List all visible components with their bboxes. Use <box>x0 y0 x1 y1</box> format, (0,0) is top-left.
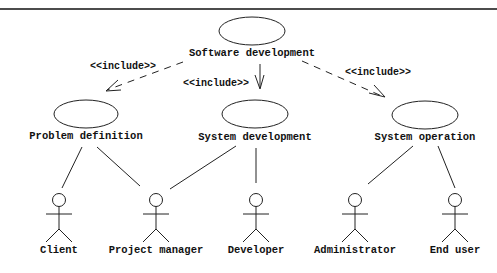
association-so-admin <box>368 146 413 184</box>
use-case-ellipse <box>219 17 285 45</box>
use-case-system-operation[interactable]: System operation <box>375 101 476 143</box>
use-case-label: Problem definition <box>29 130 142 142</box>
use-case-label: Software development <box>189 47 315 59</box>
actor-left-leg-icon <box>442 229 455 242</box>
association-so-enduser <box>438 146 455 188</box>
actor-left-leg-icon <box>243 229 256 242</box>
use-case-diagram: Software development Problem definition … <box>0 0 497 273</box>
association-pd-pm <box>97 147 140 186</box>
actor-right-leg-icon <box>156 229 169 242</box>
actor-pm[interactable]: Project manager <box>109 194 204 257</box>
actor-label: Administrator <box>314 244 396 256</box>
actor-right-leg-icon <box>455 229 468 242</box>
association-pd-client <box>62 147 82 188</box>
actor-left-leg-icon <box>46 229 59 242</box>
use-case-problem-definition[interactable]: Problem definition <box>29 100 142 142</box>
actor-head-icon <box>449 194 462 207</box>
use-case-ellipse <box>54 100 118 128</box>
actor-label: Developer <box>228 244 285 256</box>
use-case-ellipse <box>222 100 288 128</box>
use-case-ellipse <box>392 101 458 129</box>
actor-admin[interactable]: Administrator <box>314 194 396 257</box>
use-case-software-development[interactable]: Software development <box>189 17 315 59</box>
actor-left-leg-icon <box>143 229 156 242</box>
actor-label: Client <box>40 244 78 256</box>
include-label: <<include>> <box>345 67 411 78</box>
actor-right-leg-icon <box>256 229 269 242</box>
association-sd-pm <box>170 146 236 189</box>
actor-dev[interactable]: Developer <box>228 194 285 257</box>
actor-right-leg-icon <box>59 229 72 242</box>
actor-head-icon <box>53 194 66 207</box>
actor-label: End user <box>430 244 480 256</box>
include-sw-to-so: <<include>> <box>302 61 411 97</box>
include-sw-to-sd: <<include>> <box>183 64 264 89</box>
actor-head-icon <box>250 194 263 207</box>
use-case-label: System development <box>198 131 311 143</box>
actor-head-icon <box>150 194 163 207</box>
use-case-system-development[interactable]: System development <box>198 100 311 143</box>
associations <box>62 146 455 189</box>
actor-enduser[interactable]: End user <box>430 194 480 257</box>
use-case-label: System operation <box>375 131 476 143</box>
include-label: <<include>> <box>183 78 249 89</box>
actor-right-leg-icon <box>355 229 368 242</box>
actor-label: Project manager <box>109 244 204 256</box>
actor-head-icon <box>349 194 362 207</box>
include-sw-to-pd: <<include>> <box>90 61 183 91</box>
include-label: <<include>> <box>90 61 156 72</box>
actor-left-leg-icon <box>342 229 355 242</box>
actor-client[interactable]: Client <box>40 194 78 257</box>
arrowhead-icon <box>369 85 385 97</box>
